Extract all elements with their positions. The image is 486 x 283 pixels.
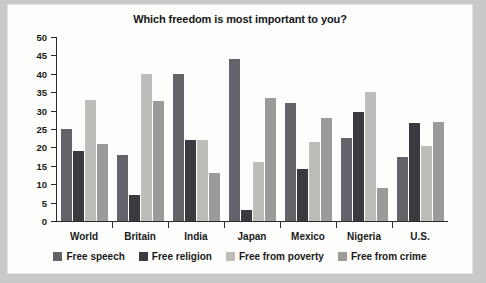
bar[interactable] <box>173 74 184 221</box>
legend-swatch-icon <box>338 252 347 261</box>
bar-group-bars <box>224 37 280 221</box>
bar[interactable] <box>377 188 388 221</box>
y-axis-tick-label: 45 <box>36 50 47 61</box>
bar[interactable] <box>353 112 364 221</box>
legend-swatch-icon <box>226 252 235 261</box>
legend-label: Free religion <box>152 251 212 262</box>
bar-group-bars <box>392 37 448 221</box>
chart-title: Which freedom is most important to you? <box>8 13 472 25</box>
bar[interactable] <box>433 122 444 221</box>
legend-item[interactable]: Free religion <box>139 251 212 262</box>
x-axis-tick-mark <box>392 221 393 228</box>
legend-item[interactable]: Free speech <box>53 251 124 262</box>
bar[interactable] <box>153 101 164 221</box>
bar-group: Mexico <box>280 37 336 221</box>
bar-group: Japan <box>224 37 280 221</box>
y-axis-tick-mark <box>51 221 57 222</box>
y-axis-tick-label: 5 <box>42 197 47 208</box>
x-axis-category-label: Japan <box>224 231 280 242</box>
bar[interactable] <box>253 162 264 221</box>
x-axis-category-label: Nigeria <box>336 231 392 242</box>
legend-swatch-icon <box>53 252 62 261</box>
bar[interactable] <box>321 118 332 221</box>
bar-group-bars <box>112 37 168 221</box>
bar-group-bars <box>56 37 112 221</box>
y-axis-tick-label: 40 <box>36 68 47 79</box>
bar-group: Nigeria <box>336 37 392 221</box>
bar[interactable] <box>265 98 276 221</box>
legend-item[interactable]: Free from crime <box>338 251 427 262</box>
bar-group-bars <box>280 37 336 221</box>
bar[interactable] <box>241 210 252 221</box>
bar[interactable] <box>309 142 320 221</box>
bar[interactable] <box>197 140 208 221</box>
x-axis-category-label: India <box>168 231 224 242</box>
y-axis-tick-label: 30 <box>36 105 47 116</box>
x-axis-tick-mark <box>280 221 281 228</box>
y-axis-tick-label: 0 <box>42 216 47 227</box>
y-axis-tick-label: 35 <box>36 87 47 98</box>
y-axis-tick-label: 20 <box>36 142 47 153</box>
x-axis-tick-mark <box>336 221 337 228</box>
x-axis-line <box>56 221 448 222</box>
y-axis-tick-label: 15 <box>36 160 47 171</box>
legend-swatch-icon <box>139 252 148 261</box>
y-axis-tick-label: 50 <box>36 32 47 43</box>
bar[interactable] <box>397 157 408 221</box>
x-axis-tick-mark <box>224 221 225 228</box>
y-axis-tick-label: 25 <box>36 124 47 135</box>
bar-group-bars <box>168 37 224 221</box>
bar[interactable] <box>297 169 308 221</box>
legend-item[interactable]: Free from poverty <box>226 251 324 262</box>
x-axis-tick-mark <box>112 221 113 228</box>
x-axis-category-label: U.S. <box>392 231 448 242</box>
x-axis-category-label: Britain <box>112 231 168 242</box>
plot-area: 05101520253035404550 WorldBritainIndiaJa… <box>56 37 448 221</box>
bar[interactable] <box>117 155 128 221</box>
legend-label: Free from poverty <box>239 251 324 262</box>
chart-legend: Free speechFree religionFree from povert… <box>8 251 472 262</box>
bar-group: U.S. <box>392 37 448 221</box>
bar-group: Britain <box>112 37 168 221</box>
bar-group: World <box>56 37 112 221</box>
bar[interactable] <box>409 123 420 221</box>
chart-frame: Which freedom is most important to you? … <box>8 5 472 273</box>
bar-group: India <box>168 37 224 221</box>
bar[interactable] <box>129 195 140 221</box>
bar-group-bars <box>336 37 392 221</box>
x-axis-category-label: Mexico <box>280 231 336 242</box>
bar[interactable] <box>209 173 220 221</box>
x-axis-tick-mark <box>168 221 169 228</box>
bar[interactable] <box>365 92 376 221</box>
bar[interactable] <box>61 129 72 221</box>
x-axis-category-label: World <box>56 231 112 242</box>
bar[interactable] <box>141 74 152 221</box>
legend-label: Free from crime <box>351 251 427 262</box>
bar[interactable] <box>97 144 108 221</box>
bar[interactable] <box>421 146 432 221</box>
bar[interactable] <box>185 140 196 221</box>
bar[interactable] <box>285 103 296 221</box>
y-axis-tick-label: 10 <box>36 179 47 190</box>
bar[interactable] <box>229 59 240 221</box>
bar[interactable] <box>85 100 96 221</box>
legend-label: Free speech <box>66 251 124 262</box>
bar[interactable] <box>73 151 84 221</box>
bar[interactable] <box>341 138 352 221</box>
